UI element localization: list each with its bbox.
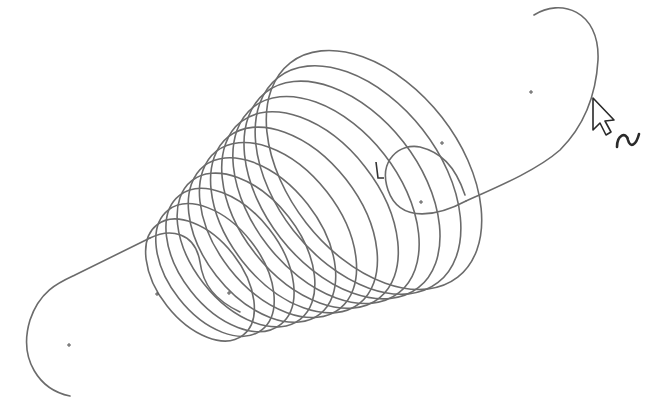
direction-marker-icon — [376, 162, 384, 178]
spring-sketch[interactable] — [27, 8, 598, 396]
sketch-viewport[interactable] — [0, 0, 663, 405]
spring-coil[interactable] — [140, 165, 320, 356]
sketch-point-icon — [440, 141, 444, 145]
spring-coil[interactable] — [149, 147, 342, 352]
sketch-point-icon — [419, 200, 423, 204]
sketch-point-icon — [529, 90, 533, 94]
sketch-point-icon — [67, 343, 71, 347]
spring-coil[interactable] — [168, 113, 389, 347]
spring-coil[interactable] — [204, 44, 480, 335]
left-hook-curve[interactable] — [27, 238, 150, 396]
spring-coil[interactable] — [177, 96, 412, 344]
sketch-points — [67, 90, 533, 347]
right-end-turn — [386, 146, 466, 213]
right-hook-curve[interactable] — [466, 8, 598, 201]
spring-coils[interactable] — [124, 10, 526, 361]
spring-coil[interactable] — [195, 61, 457, 338]
